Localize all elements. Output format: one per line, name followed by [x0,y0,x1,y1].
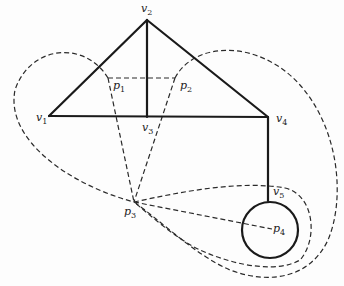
label-v4: v4 [276,113,287,127]
label-v5: v5 [273,186,284,200]
edge-v1-v4 [49,116,268,117]
edge-v2-v4 [147,20,268,117]
dashed-edge-1 [108,78,134,202]
dashed-edge-3 [134,202,272,229]
label-p1: p1 [113,80,125,94]
label-p2: p2 [180,80,192,94]
label-v3: v3 [142,122,153,136]
label-v2: v2 [141,3,152,17]
label-p4: p4 [273,223,285,237]
edge-v1-v2 [49,20,147,116]
dashed-edge-5 [134,50,337,277]
graph-diagram: v1v2v3v4v5p1p2p3p4 [0,0,344,286]
dashed-edge-2 [134,78,175,202]
dashed-edge-4 [14,53,134,202]
label-p3: p3 [124,206,136,220]
label-v1: v1 [36,112,47,126]
graph-drawing [0,0,344,286]
loop-circle [242,202,298,258]
